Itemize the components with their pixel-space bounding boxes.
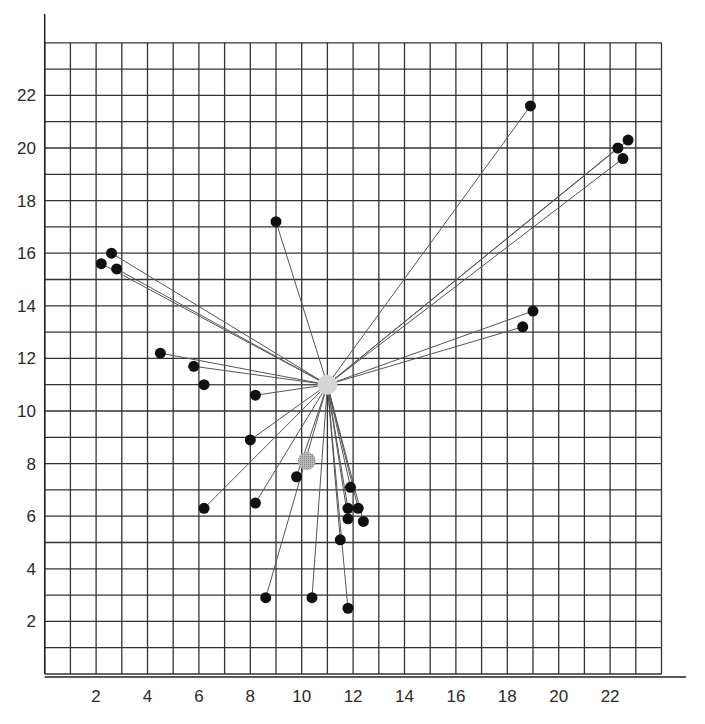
data-point [106, 248, 117, 259]
data-point [342, 503, 353, 514]
x-tick-label: 12 [344, 687, 363, 706]
data-point [199, 379, 210, 390]
connector-line [266, 385, 328, 598]
y-tick-label: 2 [27, 612, 36, 631]
x-tick-label: 22 [601, 687, 620, 706]
data-point [342, 603, 353, 614]
data-point [199, 503, 210, 514]
y-tick-label: 16 [17, 244, 36, 263]
y-tick-label: 20 [17, 139, 36, 158]
connector-line [327, 140, 628, 385]
data-points [96, 100, 634, 613]
data-point [271, 216, 282, 227]
axes [45, 14, 686, 677]
y-tick-label: 18 [17, 192, 36, 211]
data-point [623, 135, 634, 146]
data-point [335, 534, 346, 545]
data-point [525, 100, 536, 111]
connector-line [112, 253, 328, 385]
data-point [291, 471, 302, 482]
data-point [358, 516, 369, 527]
x-tick-label: 14 [395, 687, 414, 706]
x-tick-label: 18 [498, 687, 517, 706]
connector-line [312, 385, 327, 598]
data-point [612, 143, 623, 154]
y-tick-label: 8 [27, 455, 36, 474]
grid-lines [45, 43, 662, 674]
data-point [245, 434, 256, 445]
tick-labels: 246810121416182022246810121416182022 [17, 86, 619, 706]
data-point [342, 513, 353, 524]
y-tick-label: 10 [17, 402, 36, 421]
data-point [111, 263, 122, 274]
x-tick-label: 4 [143, 687, 152, 706]
data-point [353, 503, 364, 514]
connector-lines [101, 106, 628, 608]
x-tick-label: 10 [292, 687, 311, 706]
connector-line [255, 385, 327, 503]
x-tick-label: 6 [194, 687, 203, 706]
connector-line [194, 366, 328, 384]
data-point [188, 361, 199, 372]
connector-line [250, 385, 327, 440]
connector-line [117, 269, 328, 385]
data-point [250, 390, 261, 401]
y-tick-label: 14 [17, 297, 36, 316]
data-point [517, 321, 528, 332]
data-point [306, 592, 317, 603]
data-point [617, 153, 628, 164]
data-point [260, 592, 271, 603]
hatched-marker [298, 452, 316, 470]
connector-line [255, 385, 327, 396]
x-tick-label: 20 [549, 687, 568, 706]
y-tick-label: 12 [17, 349, 36, 368]
hub-marker [317, 375, 337, 395]
data-point [345, 482, 356, 493]
connector-line [327, 159, 623, 385]
y-tick-label: 22 [17, 86, 36, 105]
data-point [528, 306, 539, 317]
x-tick-label: 16 [446, 687, 465, 706]
connector-line [327, 327, 522, 385]
data-point [96, 258, 107, 269]
y-tick-label: 6 [27, 507, 36, 526]
data-point [155, 348, 166, 359]
x-tick-label: 2 [91, 687, 100, 706]
data-point [250, 498, 261, 509]
y-tick-label: 4 [27, 560, 36, 579]
scatter-chart: 246810121416182022246810121416182022 [0, 0, 705, 724]
x-tick-label: 8 [246, 687, 255, 706]
